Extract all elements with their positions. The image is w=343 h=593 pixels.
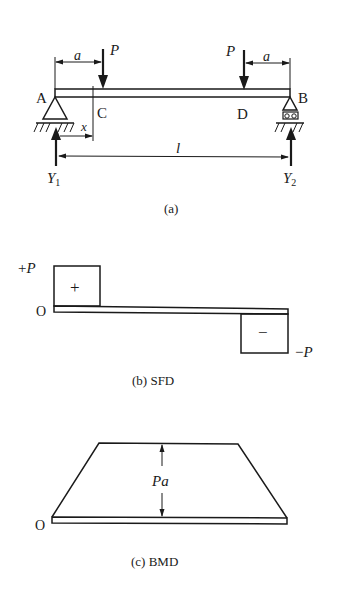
bmd-origin-label: O [35, 518, 45, 533]
beam [55, 89, 290, 97]
label-a-point: A [36, 90, 47, 106]
label-dim-a-left: a [74, 48, 81, 63]
bmd-value-label: Pa [151, 473, 169, 489]
label-c-point: C [97, 105, 107, 121]
beam-figure-a [34, 49, 304, 166]
caption-a: (a) [164, 201, 178, 216]
bmd-trapezoid [52, 443, 287, 518]
label-load-p-d: P [225, 43, 235, 59]
label-reaction-y2: Y2 [283, 170, 296, 188]
label-dim-x: x [80, 119, 87, 134]
sfd-origin-label: O [36, 304, 46, 319]
sfd-minus-p-label: −P [295, 344, 313, 360]
label-d-point: D [237, 106, 248, 122]
label-b-point: B [298, 90, 308, 106]
sfd-baseline [54, 306, 288, 314]
dimension-l [59, 156, 288, 157]
shear-force-diagram [54, 266, 288, 353]
sfd-plus-sign: + [70, 278, 80, 297]
label-load-p-c: P [109, 42, 119, 58]
sfd-plus-p-label: +P [18, 260, 36, 276]
bending-moment-diagram [52, 443, 287, 524]
label-reaction-y1: Y1 [47, 170, 60, 188]
label-dim-a-right: a [263, 49, 270, 64]
beam-diagram-figure: A B C D P P a a x l Y1 Y2 (a) +P −P O + … [0, 0, 343, 593]
sfd-minus-sign: − [258, 323, 268, 342]
caption-c: (c) BMD [131, 554, 178, 569]
label-dim-l: l [176, 140, 180, 156]
caption-b: (b) SFD [132, 373, 174, 388]
bmd-baseline [52, 517, 287, 524]
